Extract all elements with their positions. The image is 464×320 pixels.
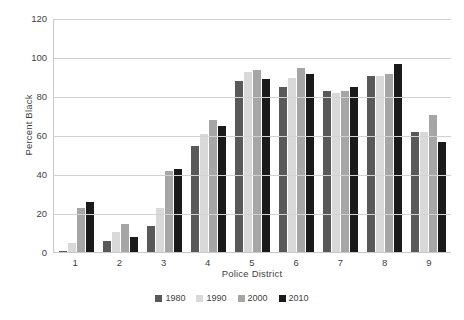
legend-item-2000[interactable]: 2000 [238,293,268,303]
bar-1980-district-5 [235,81,243,253]
bar-1980-district-3 [147,226,155,253]
bar-2010-district-5 [262,79,270,253]
gridline-100 [54,58,451,59]
bar-2000-district-6 [297,68,305,253]
y-tick-label: 20 [3,209,47,219]
bar-1990-district-8 [376,76,384,253]
bar-2010-district-7 [350,87,358,253]
legend-swatch-icon [279,295,286,302]
y-tick-label: 0 [3,248,47,258]
y-tick-label: 40 [3,170,47,180]
bar-2010-district-8 [394,64,402,253]
gridline-40 [54,175,451,176]
gridline-60 [54,136,451,137]
gridline-120 [54,19,451,20]
legend-label: 1980 [165,293,185,303]
bar-2000-district-4 [209,120,217,253]
legend-item-2010[interactable]: 2010 [279,293,309,303]
y-axis-ticks: 020406080100120 [0,19,47,253]
bar-1980-district-9 [411,132,419,253]
bar-1990-district-7 [332,93,340,253]
bar-1990-district-5 [244,72,252,253]
gridline-0 [54,252,451,253]
legend-item-1980[interactable]: 1980 [155,293,185,303]
legend-label: 2000 [248,293,268,303]
x-axis-title: Police District [53,268,451,279]
bar-1990-district-6 [288,78,296,254]
bar-2000-district-7 [341,91,349,253]
y-tick-label: 120 [3,14,47,24]
gridline-20 [54,214,451,215]
bar-1990-district-2 [112,232,120,253]
bar-1980-district-8 [367,76,375,253]
chart-legend: 1980199020002010 [0,293,464,303]
bar-1990-district-4 [200,134,208,253]
bar-2010-district-2 [130,237,138,253]
bar-2010-district-9 [438,142,446,253]
bar-1980-district-6 [279,87,287,253]
legend-swatch-icon [196,295,203,302]
legend-swatch-icon [238,295,245,302]
legend-label: 2010 [289,293,309,303]
bar-1990-district-9 [420,132,428,253]
bar-2010-district-4 [218,126,226,253]
bar-2000-district-2 [121,224,129,253]
gridline-80 [54,97,451,98]
bar-2010-district-6 [306,74,314,253]
bar-1980-district-4 [191,146,199,253]
bar-1980-district-7 [323,91,331,253]
plot-area [53,19,451,253]
y-tick-label: 100 [3,53,47,63]
y-tick-label: 80 [3,92,47,102]
bar-2000-district-3 [165,171,173,253]
y-tick-label: 60 [3,131,47,141]
bar-2010-district-3 [174,169,182,253]
legend-item-1990[interactable]: 1990 [196,293,226,303]
bar-2010-district-1 [86,202,94,253]
bar-chart: Percent Black 020406080100120 123456789 … [0,0,464,320]
legend-label: 1990 [206,293,226,303]
bar-2000-district-8 [385,74,393,253]
legend-swatch-icon [155,295,162,302]
